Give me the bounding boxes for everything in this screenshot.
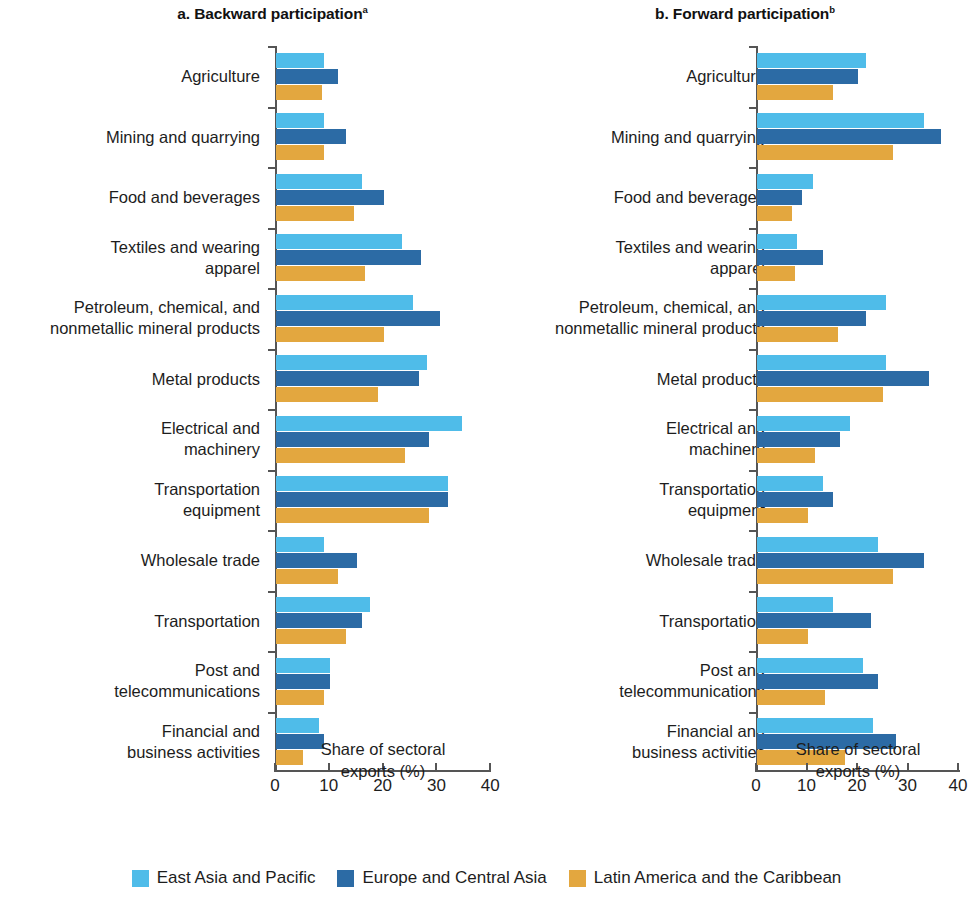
bar bbox=[757, 250, 823, 265]
panel-a-plot: AgricultureMining and quarryingFood and … bbox=[0, 46, 500, 772]
bar bbox=[757, 690, 825, 705]
bar bbox=[757, 492, 833, 507]
category-label: Mining and quarrying bbox=[503, 126, 765, 147]
bar bbox=[276, 129, 346, 144]
panel-b-title-superscript: b bbox=[829, 4, 835, 15]
y-axis-tick bbox=[268, 409, 276, 411]
category-label: Food and beverages bbox=[0, 187, 260, 208]
y-axis-tick bbox=[268, 228, 276, 230]
figure-root: a. Backward participationa AgricultureMi… bbox=[0, 0, 973, 906]
category-label: Mining and quarrying bbox=[0, 126, 260, 147]
bar bbox=[276, 416, 462, 431]
category-label: Wholesale trade bbox=[0, 550, 260, 571]
category-label: Textiles and wearing apparel bbox=[503, 237, 765, 279]
bar bbox=[757, 718, 873, 733]
bar bbox=[276, 371, 419, 386]
panel-backward-participation: a. Backward participationa AgricultureMi… bbox=[0, 0, 505, 860]
bar bbox=[757, 234, 797, 249]
bar bbox=[757, 327, 838, 342]
y-axis-tick bbox=[268, 46, 276, 48]
y-axis-tick bbox=[749, 107, 757, 109]
bar bbox=[757, 448, 815, 463]
bar bbox=[276, 327, 384, 342]
panel-a-title-superscript: a bbox=[363, 4, 368, 15]
bar bbox=[757, 129, 941, 144]
category-label: Wholesale trade bbox=[503, 550, 765, 571]
category-label: Agriculture bbox=[0, 66, 260, 87]
category-label: Transportation bbox=[0, 610, 260, 631]
bar bbox=[276, 69, 338, 84]
bar bbox=[276, 190, 384, 205]
bar bbox=[757, 206, 792, 221]
panel-b-axis-title: Share of sectoral exports (%) bbox=[738, 738, 973, 782]
y-axis-tick bbox=[268, 651, 276, 653]
bar bbox=[276, 658, 330, 673]
y-axis-tick bbox=[749, 530, 757, 532]
panel-a-axis-title: Share of sectoral exports (%) bbox=[263, 738, 503, 782]
category-label: Transportation equipment bbox=[503, 479, 765, 521]
chart-legend: East Asia and PacificEurope and Central … bbox=[0, 868, 973, 888]
category-label: Financial and business activities bbox=[0, 721, 260, 763]
bar bbox=[757, 613, 871, 628]
category-label: Metal products bbox=[503, 368, 765, 389]
legend-swatch-icon bbox=[569, 870, 586, 887]
bar bbox=[757, 537, 878, 552]
panel-a-title-text: a. Backward participation bbox=[177, 5, 362, 22]
bar bbox=[276, 629, 346, 644]
bar bbox=[757, 371, 929, 386]
y-axis-tick bbox=[268, 349, 276, 351]
y-axis-tick bbox=[268, 107, 276, 109]
legend-item: Europe and Central Asia bbox=[337, 868, 546, 888]
y-axis-tick bbox=[268, 530, 276, 532]
bar bbox=[276, 508, 429, 523]
legend-item: East Asia and Pacific bbox=[132, 868, 316, 888]
bar bbox=[276, 690, 324, 705]
bar bbox=[276, 597, 370, 612]
bar bbox=[757, 266, 795, 281]
panel-b-title: b. Forward participationb bbox=[511, 4, 973, 23]
bar bbox=[276, 85, 322, 100]
category-label: Post and telecommunications bbox=[0, 660, 260, 702]
bar bbox=[757, 113, 924, 128]
y-axis-tick bbox=[749, 167, 757, 169]
y-axis-tick bbox=[749, 470, 757, 472]
panel-b-title-text: b. Forward participation bbox=[655, 5, 829, 22]
legend-swatch-icon bbox=[337, 870, 354, 887]
y-axis-tick bbox=[749, 712, 757, 714]
bar bbox=[276, 250, 421, 265]
panel-b-axis-area: 010203040 bbox=[756, 46, 960, 772]
bar bbox=[276, 553, 357, 568]
legend-label: Europe and Central Asia bbox=[362, 868, 546, 888]
panel-a-category-labels: AgricultureMining and quarryingFood and … bbox=[0, 46, 268, 772]
category-label: Agriculture bbox=[503, 66, 765, 87]
bar bbox=[276, 476, 448, 491]
category-label: Transportation equipment bbox=[0, 479, 260, 521]
panel-b-plot: AgricultureMining and quarryingFood and … bbox=[505, 46, 973, 772]
y-axis-tick bbox=[268, 288, 276, 290]
y-axis-tick bbox=[268, 712, 276, 714]
bar bbox=[757, 658, 863, 673]
y-axis-tick bbox=[749, 288, 757, 290]
bar bbox=[276, 537, 324, 552]
bar bbox=[757, 416, 850, 431]
category-label: Food and beverages bbox=[503, 187, 765, 208]
category-label: Metal products bbox=[0, 368, 260, 389]
bar bbox=[276, 145, 324, 160]
bar bbox=[276, 387, 378, 402]
bar bbox=[276, 613, 362, 628]
panel-a-title: a. Backward participationa bbox=[20, 4, 525, 23]
legend-swatch-icon bbox=[132, 870, 149, 887]
category-label: Electrical and machinery bbox=[503, 418, 765, 460]
panel-forward-participation: b. Forward participationb AgricultureMin… bbox=[505, 0, 973, 860]
y-axis-tick bbox=[749, 46, 757, 48]
bar bbox=[757, 629, 808, 644]
category-label: Electrical and machinery bbox=[0, 418, 260, 460]
bar bbox=[757, 295, 886, 310]
category-label: Post and telecommunications bbox=[503, 660, 765, 702]
bar bbox=[757, 311, 866, 326]
bar bbox=[276, 53, 324, 68]
bar bbox=[276, 492, 448, 507]
y-axis-tick bbox=[268, 167, 276, 169]
bar bbox=[276, 718, 319, 733]
bar bbox=[276, 295, 413, 310]
